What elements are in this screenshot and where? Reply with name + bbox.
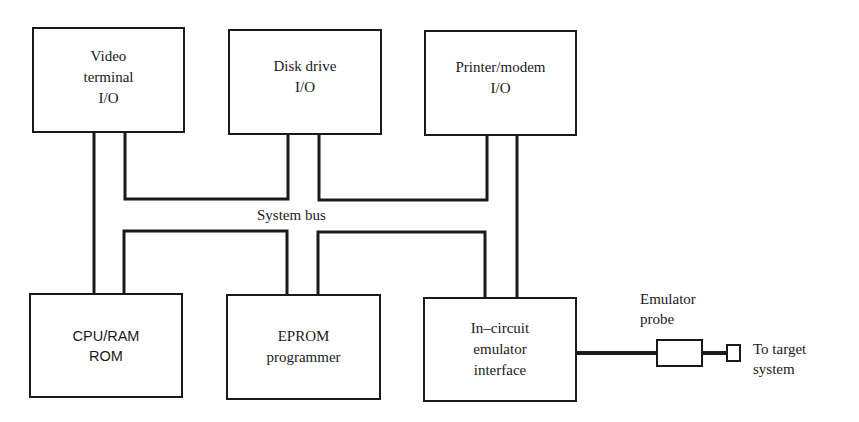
video-terminal-io-label: Video terminal I/O [84,46,134,109]
printer-modem-io-block: Printer/modem I/O [424,30,577,136]
disk-drive-io-block: Disk drive I/O [228,29,382,135]
printer-modem-io-label: Printer/modem I/O [456,57,546,99]
bus-line-eprom-ice [318,232,485,297]
eprom-programmer-block: EPROM programmer [226,294,381,400]
target-connector [727,345,740,361]
disk-drive-io-label: Disk drive I/O [274,56,337,98]
in-circuit-emulator-interface-label: In–circuit emulator interface [471,318,529,381]
emulator-probe-box [657,340,702,366]
bus-line-video-disk [125,132,288,199]
eprom-programmer-label: EPROM programmer [266,326,340,368]
bus-line-disk-printer [319,134,487,200]
cpu-ram-rom-label: CPU/RAM ROM [73,326,140,366]
video-terminal-io-block: Video terminal I/O [32,27,185,133]
cpu-ram-rom-block: CPU/RAM ROM [29,293,183,398]
emulator-probe-label: Emulator probe [640,289,696,329]
bus-line-cpu-eprom [124,231,287,294]
system-bus-label: System bus [257,205,326,225]
target-system-label: To target system [753,339,806,379]
in-circuit-emulator-interface-block: In–circuit emulator interface [423,297,577,402]
